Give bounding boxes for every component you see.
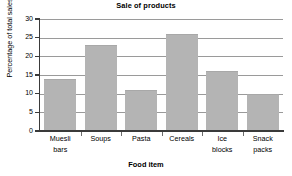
- y-tick-label-20: 20: [5, 52, 33, 60]
- bar-ice-blocks[interactable]: [206, 71, 238, 131]
- category-label-muesli-bars: Mueslibars: [40, 134, 81, 155]
- category-label-line: packs: [243, 145, 284, 156]
- category-label-line: Pasta: [121, 134, 162, 145]
- gridline-15: [40, 75, 283, 76]
- y-tick-mark-20: [35, 56, 40, 57]
- y-tick-label-25: 25: [5, 33, 33, 41]
- plot-area: [40, 19, 283, 131]
- gridline-25: [40, 38, 283, 39]
- bar-snack-packs[interactable]: [247, 94, 279, 131]
- category-label-line: Cereals: [162, 134, 203, 145]
- category-label-line: Soups: [81, 134, 122, 145]
- bar-pasta[interactable]: [125, 90, 157, 131]
- category-label-line: blocks: [202, 145, 243, 156]
- category-label-snack-packs: Snackpacks: [243, 134, 284, 155]
- y-tick-mark-0: [35, 130, 40, 131]
- y-tick-mark-15: [35, 74, 40, 75]
- category-label-soups: Soups: [81, 134, 122, 145]
- category-label-line: Muesli: [40, 134, 81, 145]
- chart-title: Sale of products: [0, 1, 292, 10]
- category-label-pasta: Pasta: [121, 134, 162, 145]
- y-tick-mark-25: [35, 37, 40, 38]
- y-tick-label-5: 5: [5, 108, 33, 116]
- category-label-line: Ice: [202, 134, 243, 145]
- bar-cereals[interactable]: [166, 34, 198, 131]
- category-label-ice-blocks: Iceblocks: [202, 134, 243, 155]
- x-axis-category-labels: MueslibarsSoupsPastaCerealsIceblocksSnac…: [40, 134, 283, 160]
- y-tick-label-30: 30: [5, 15, 33, 23]
- y-tick-label-15: 15: [5, 71, 33, 79]
- gridline-20: [40, 56, 283, 57]
- bar-soups[interactable]: [85, 45, 117, 131]
- gridline-30: [40, 19, 283, 20]
- category-label-cereals: Cereals: [162, 134, 203, 145]
- y-tick-mark-30: [35, 18, 40, 19]
- y-tick-label-0: 0: [5, 127, 33, 135]
- y-tick-mark-5: [35, 112, 40, 113]
- bar-chart-figure: Sale of products Percentage of total sal…: [0, 0, 292, 176]
- x-axis-title: Food item: [0, 160, 292, 169]
- y-axis-tick-labels: 051015202530: [0, 0, 33, 176]
- y-tick-label-10: 10: [5, 89, 33, 97]
- y-tick-mark-10: [35, 93, 40, 94]
- category-label-line: bars: [40, 145, 81, 156]
- category-label-line: Snack: [243, 134, 284, 145]
- bar-muesli-bars[interactable]: [44, 79, 76, 131]
